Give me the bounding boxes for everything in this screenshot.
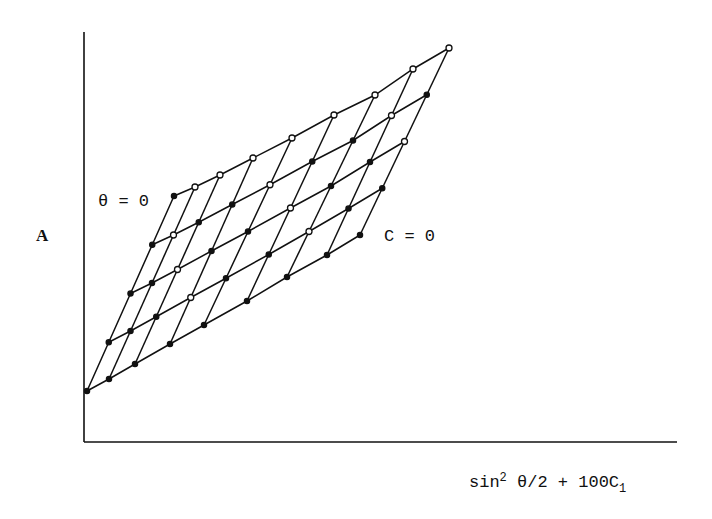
filled-data-point: [171, 193, 176, 198]
x-label-subscript: 1: [619, 482, 626, 496]
filled-data-point: [223, 276, 228, 281]
concentration-line: [152, 95, 427, 245]
filled-data-point: [245, 229, 250, 234]
filled-data-point: [132, 361, 137, 366]
open-data-point: [372, 92, 378, 98]
filled-data-point: [367, 159, 372, 164]
open-data-point: [306, 229, 312, 235]
data-markers: [84, 45, 452, 394]
concentration-line: [109, 188, 383, 342]
open-data-point: [389, 113, 395, 119]
open-data-point: [188, 295, 194, 301]
open-data-point: [250, 155, 256, 161]
filled-data-point: [346, 206, 351, 211]
concentration-line: [174, 48, 449, 196]
filled-data-point: [167, 341, 172, 346]
filled-data-point: [310, 159, 315, 164]
filled-data-point: [284, 274, 289, 279]
filled-data-point: [149, 280, 154, 285]
filled-data-point: [230, 202, 235, 207]
open-data-point: [331, 112, 337, 118]
filled-data-point: [209, 248, 214, 253]
filled-data-point: [128, 328, 133, 333]
c-zero-annotation: C = 0: [384, 227, 435, 246]
filled-data-point: [266, 252, 271, 257]
filled-data-point: [350, 138, 355, 143]
filled-data-point: [380, 186, 385, 191]
filled-data-point: [244, 298, 249, 303]
open-data-point: [288, 205, 294, 211]
filled-data-point: [324, 252, 329, 257]
filled-data-point: [128, 291, 133, 296]
x-label-middle: θ/2 + 100C: [507, 473, 619, 492]
zimm-plot: [0, 0, 712, 519]
filled-data-point: [150, 242, 155, 247]
open-data-point: [289, 135, 295, 141]
x-axis-label: sin2 θ/2 + 100C1: [469, 473, 626, 492]
grid-lines: [87, 48, 449, 391]
filled-data-point: [328, 183, 333, 188]
filled-data-point: [196, 220, 201, 225]
open-data-point: [410, 66, 416, 72]
filled-data-point: [106, 340, 111, 345]
y-axis-label: A: [36, 226, 48, 246]
c-zero-line: [87, 235, 360, 391]
theta-zero-annotation: θ = 0: [98, 192, 149, 211]
open-data-point: [192, 184, 198, 190]
filled-data-point: [106, 376, 111, 381]
open-data-point: [217, 172, 223, 178]
open-data-point: [171, 232, 177, 238]
filled-data-point: [201, 322, 206, 327]
x-label-superscript: 2: [500, 471, 507, 485]
open-data-point: [446, 45, 452, 51]
x-label-sin: sin: [469, 473, 500, 492]
concentration-line: [131, 142, 405, 294]
open-data-point: [175, 267, 181, 273]
filled-data-point: [154, 314, 159, 319]
open-data-point: [402, 139, 408, 145]
open-data-point: [267, 182, 273, 188]
filled-data-point: [424, 92, 429, 97]
filled-data-point: [357, 232, 362, 237]
filled-data-point: [84, 388, 89, 393]
